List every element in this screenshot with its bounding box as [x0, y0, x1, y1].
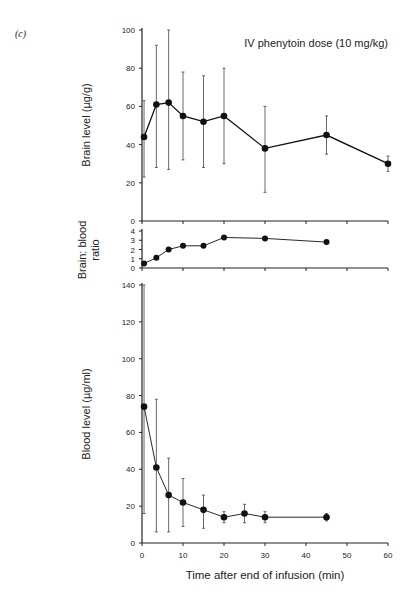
y-tick-label: 40: [126, 465, 135, 474]
y-tick-label: 0: [131, 539, 136, 548]
y-tick-label: 60: [126, 428, 135, 437]
data-point: [221, 234, 227, 240]
data-point: [324, 239, 330, 245]
x-tick-label: 10: [179, 551, 188, 560]
ratio-y-axis-title-line2: ratio: [89, 239, 101, 260]
y-tick-label: 1: [131, 255, 136, 264]
data-point: [166, 247, 172, 253]
data-point: [323, 514, 330, 521]
data-point: [180, 113, 187, 120]
y-tick-label: 3: [131, 236, 136, 245]
chart-title: IV phenytoin dose (10 mg/kg): [244, 37, 388, 49]
brain-blood-ratio-panel: 01234: [131, 227, 388, 273]
data-point: [153, 101, 160, 108]
data-point: [201, 243, 207, 249]
panel-label: (c): [15, 28, 27, 40]
y-tick-label: 120: [122, 318, 136, 327]
data-point: [165, 492, 172, 499]
y-tick-label: 140: [122, 281, 136, 290]
data-point: [221, 514, 228, 521]
data-point: [180, 499, 187, 506]
data-line: [144, 407, 326, 518]
data-point: [180, 243, 186, 249]
data-point: [153, 464, 160, 471]
x-tick-label: 0: [140, 551, 145, 560]
data-point: [385, 160, 392, 167]
data-line: [144, 103, 388, 164]
data-point: [153, 255, 159, 261]
y-tick-label: 0: [131, 217, 136, 226]
data-point: [200, 118, 207, 125]
y-tick-label: 80: [126, 392, 135, 401]
y-tick-label: 2: [131, 246, 136, 255]
y-tick-label: 40: [126, 141, 135, 150]
data-point: [221, 113, 228, 120]
data-point: [200, 507, 207, 514]
data-point: [323, 132, 330, 139]
y-tick-label: 100: [122, 26, 136, 35]
blood-y-axis-title: Blood level (µg/ml): [80, 368, 92, 459]
data-point: [141, 403, 148, 410]
y-tick-label: 100: [122, 355, 136, 364]
ratio-y-axis-title-line1: Brain: blood: [76, 221, 88, 280]
brain-y-axis-title: Brain level (µg/g): [80, 83, 92, 166]
y-tick-label: 20: [126, 179, 135, 188]
x-axis-title: Time after end of infusion (min): [186, 569, 345, 581]
blood-level-panel: 0204060801001201400102030405060: [122, 281, 393, 560]
y-tick-label: 60: [126, 102, 135, 111]
x-tick-label: 50: [343, 551, 352, 560]
y-tick-label: 20: [126, 502, 135, 511]
phenytoin-chart: (c) IV phenytoin dose (10 mg/kg) 0204060…: [0, 0, 413, 598]
y-tick-label: 4: [131, 227, 136, 236]
x-tick-label: 60: [384, 551, 393, 560]
y-tick-label: 80: [126, 64, 135, 73]
x-tick-label: 20: [220, 551, 229, 560]
data-point: [262, 235, 268, 241]
data-point: [262, 145, 269, 152]
x-tick-label: 40: [302, 551, 311, 560]
brain-level-panel: 020406080100: [122, 26, 392, 226]
x-tick-label: 30: [261, 551, 270, 560]
y-tick-label: 0: [131, 264, 136, 273]
data-point: [141, 134, 148, 141]
data-point: [241, 510, 248, 517]
data-point: [262, 514, 269, 521]
data-point: [141, 260, 147, 266]
data-point: [165, 99, 172, 106]
